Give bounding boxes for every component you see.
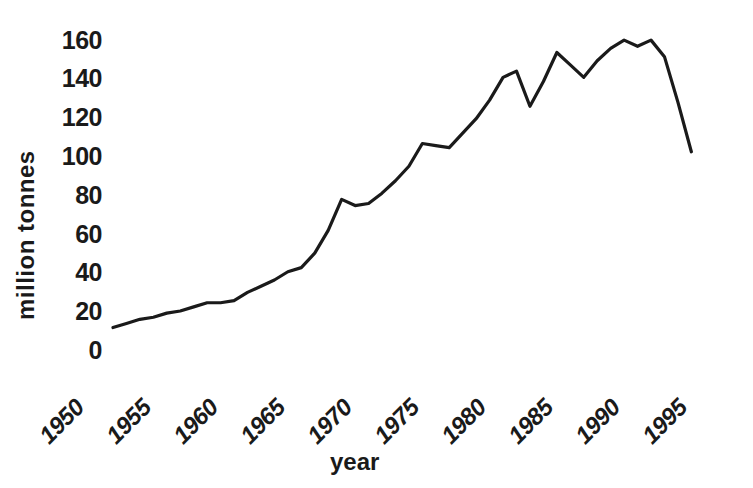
y-tick-label-140: 140 <box>40 66 102 91</box>
x-axis-title: year <box>330 450 379 474</box>
y-tick-label-20: 20 <box>40 299 102 324</box>
y-tick-label-120: 120 <box>40 105 102 130</box>
y-tick-label-40: 40 <box>40 260 102 285</box>
y-tick-label-60: 60 <box>40 222 102 247</box>
line-chart-figure: 160 140 120 100 80 60 40 20 0 1950 1955 … <box>0 0 753 488</box>
y-tick-label-100: 100 <box>40 144 102 169</box>
y-tick-label-80: 80 <box>40 183 102 208</box>
y-axis-title: million tonnes <box>14 120 38 320</box>
y-tick-label-0: 0 <box>40 338 102 363</box>
y-tick-label-160: 160 <box>40 28 102 53</box>
chart-plot-area <box>0 0 753 488</box>
data-series-line <box>113 40 691 327</box>
